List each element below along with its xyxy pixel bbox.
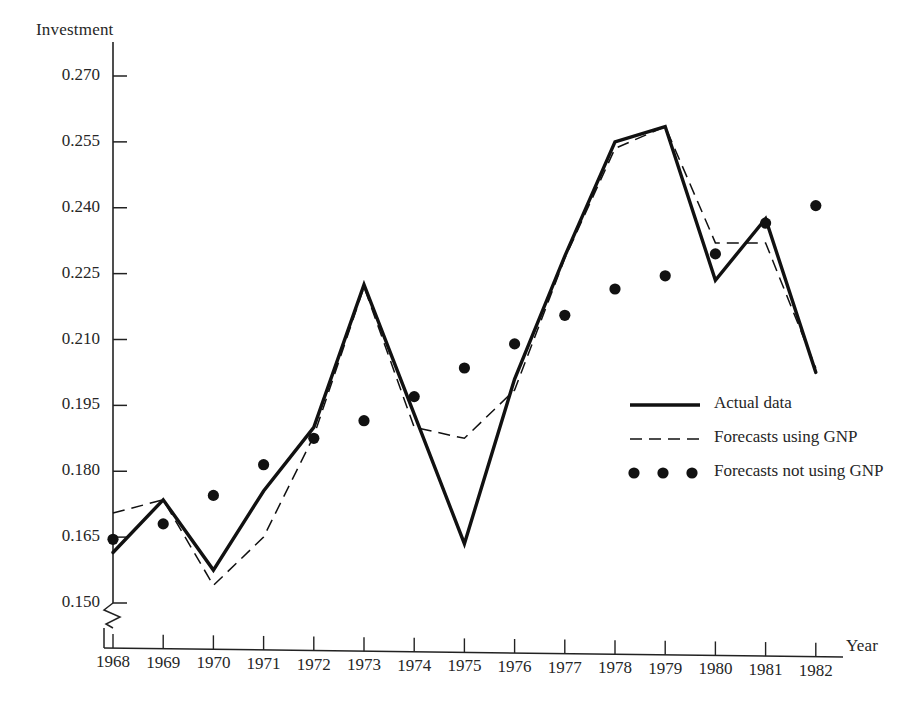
x-tick-label: 1976 xyxy=(487,657,543,677)
series-forecasts-not-using-gnp xyxy=(107,200,821,545)
y-tick-label: 0.210 xyxy=(30,329,100,349)
y-tick-label: 0.165 xyxy=(30,526,100,546)
x-tick-label: 1973 xyxy=(336,655,392,675)
x-tick-label: 1980 xyxy=(687,659,743,679)
plot-area xyxy=(0,0,907,704)
x-tick-label: 1969 xyxy=(135,653,191,673)
x-tick-label: 1974 xyxy=(386,656,442,676)
y-tick-label: 0.195 xyxy=(30,394,100,414)
x-tick-label: 1971 xyxy=(236,654,292,674)
y-tick-label: 0.225 xyxy=(30,263,100,283)
series-actual-data xyxy=(113,127,816,571)
y-tick-label: 0.255 xyxy=(30,131,100,151)
y-tick-label: 0.180 xyxy=(30,460,100,480)
investment-forecast-chart: Investment Year 0.1500.1650.1800.1950.21… xyxy=(0,0,907,704)
y-tick-label: 0.270 xyxy=(30,65,100,85)
legend-markers xyxy=(628,405,700,479)
y-tick-label: 0.150 xyxy=(30,592,100,612)
x-tick-label: 1975 xyxy=(436,656,492,676)
legend-item-label: Actual data xyxy=(714,393,792,413)
x-tick-label: 1982 xyxy=(788,661,844,681)
x-tick-label: 1968 xyxy=(85,652,141,672)
legend-item-label: Forecasts using GNP xyxy=(714,427,858,447)
x-tick-label: 1972 xyxy=(286,655,342,675)
x-tick-label: 1970 xyxy=(185,653,241,673)
x-tick-label: 1981 xyxy=(738,660,794,680)
y-tick-label: 0.240 xyxy=(30,197,100,217)
series-forecasts-using-gnp xyxy=(113,127,816,586)
legend-item-label: Forecasts not using GNP xyxy=(714,461,884,481)
x-tick-label: 1979 xyxy=(637,659,693,679)
x-tick-label: 1977 xyxy=(537,658,593,678)
x-tick-label: 1978 xyxy=(587,658,643,678)
y-axis-ticks xyxy=(113,76,127,603)
